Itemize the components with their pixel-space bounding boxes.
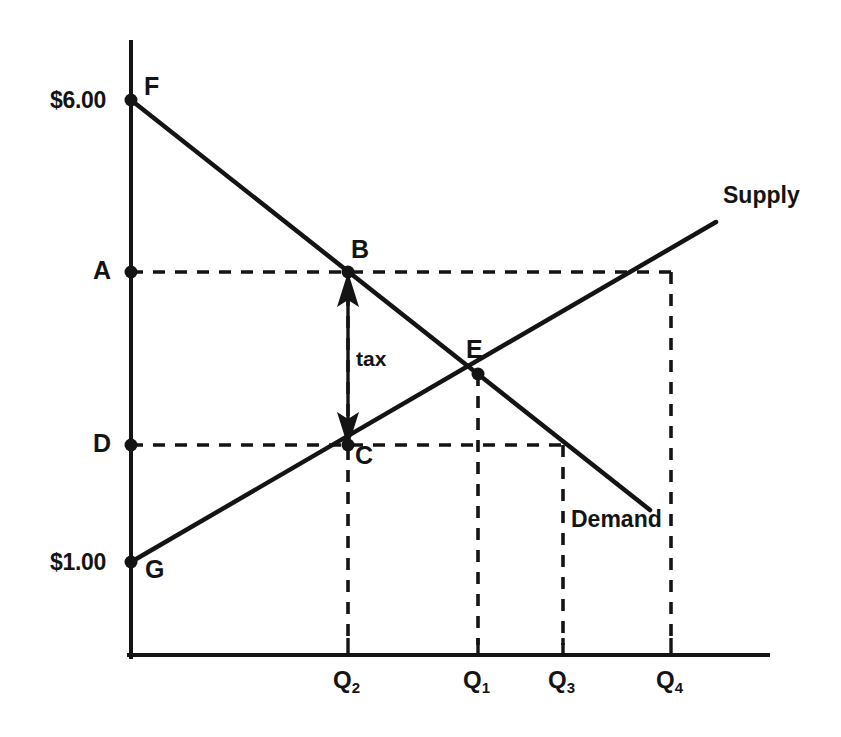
y-tick-label-price-top: $6.00 (50, 89, 106, 112)
x-tick-label-q1-sub: 1 (482, 679, 490, 696)
supply-curve-label: Supply (723, 184, 800, 207)
curves-group (131, 100, 716, 562)
x-tick-label-q4-text: Q (656, 666, 675, 693)
diagram-canvas (0, 0, 841, 737)
supply-demand-tax-diagram: $6.00 F A D $1.00 G B C E tax Supply Dem… (0, 0, 841, 737)
x-tick-label-q3-sub: 3 (567, 679, 575, 696)
tax-annotation-label: tax (356, 348, 386, 369)
point-label-e: E (466, 337, 483, 362)
point-c-marker (342, 439, 355, 452)
point-d-marker (125, 439, 138, 452)
demand-curve-label: Demand (571, 508, 662, 531)
x-tick-label-q3: Q3 (548, 668, 575, 692)
y-tick-label-price-bottom: $1.00 (50, 551, 106, 574)
point-label-g: G (145, 557, 164, 582)
point-e-marker (472, 368, 485, 381)
y-tick-label-d: D (93, 431, 111, 456)
x-tick-label-q1-text: Q (463, 666, 482, 693)
guide-lines-group (131, 272, 671, 645)
x-tick-label-q4: Q4 (656, 668, 683, 692)
x-tick-label-q2-text: Q (333, 666, 352, 693)
point-b-marker (342, 266, 355, 279)
point-g-marker (125, 556, 138, 569)
x-tick-label-q3-text: Q (548, 666, 567, 693)
point-f-marker (125, 94, 138, 107)
y-tick-label-a: A (93, 258, 111, 283)
x-tick-label-q2: Q2 (333, 668, 360, 692)
point-a-marker (125, 266, 138, 279)
x-tick-label-q1: Q1 (463, 668, 490, 692)
point-label-f: F (144, 74, 159, 99)
point-label-b: B (351, 237, 369, 262)
point-label-c: C (355, 443, 373, 468)
marked-points-group (125, 94, 485, 569)
x-tick-label-q4-sub: 4 (675, 679, 683, 696)
x-tick-label-q2-sub: 2 (352, 679, 360, 696)
